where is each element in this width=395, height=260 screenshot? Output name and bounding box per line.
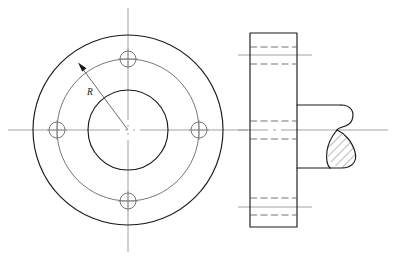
front-view: R [8, 8, 248, 252]
bolt-hole-bottom [118, 191, 138, 211]
hub-section-hatching [320, 124, 364, 174]
radius-label: R [86, 87, 93, 97]
radius-dimension-leader [78, 63, 128, 131]
bolt-hole-left [47, 120, 67, 140]
technical-drawing-canvas: R [0, 0, 395, 260]
engineering-drawing: R [0, 0, 395, 260]
leader-arrowhead [78, 63, 87, 72]
section-view [238, 33, 388, 227]
bolt-hole-top [118, 49, 138, 69]
bolt-hole-right [189, 120, 209, 140]
